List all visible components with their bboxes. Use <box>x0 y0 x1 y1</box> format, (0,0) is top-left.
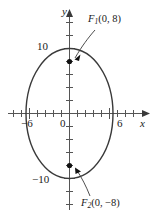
y-tick-label-negative-10: −10 <box>32 174 49 185</box>
x-tick-label-negative-6: −6 <box>21 118 33 129</box>
x-tick-label-6: 6 <box>117 118 123 129</box>
focus-1-leader-line <box>75 30 95 58</box>
focus-1-annotation: F1(0, 8) <box>88 14 121 25</box>
focus-2-annotation: F2(0, −8) <box>81 198 120 209</box>
coordinate-plot <box>0 0 154 218</box>
x-axis-label: x <box>140 118 145 129</box>
focus-1-coords: (0, 8) <box>98 13 121 24</box>
x-axis-arrow-icon <box>142 110 150 117</box>
y-axis-label: y <box>62 6 67 17</box>
y-axis-arrow-icon <box>66 9 73 17</box>
focus-2-point <box>67 163 72 168</box>
focus-2-leader-arrow-icon <box>75 168 81 175</box>
focus-1-point <box>67 59 72 64</box>
ellipse-figure: y x 10 −10 0 6 −6 F1(0, 8) F2(0, −8) <box>0 0 154 218</box>
focus-2-coords: (0, −8) <box>91 197 120 208</box>
origin-label: 0 <box>60 118 66 129</box>
y-tick-label-10: 10 <box>37 41 48 52</box>
